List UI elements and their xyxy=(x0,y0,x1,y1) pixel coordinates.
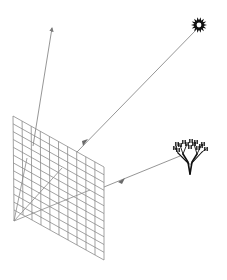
eye-ray-3 xyxy=(14,190,90,221)
diagram-canvas xyxy=(0,0,227,280)
ray-tree-to-plane xyxy=(104,156,180,187)
eye-ray-2 xyxy=(14,168,62,221)
view-ray-up xyxy=(33,28,52,146)
sun-icon xyxy=(191,17,207,33)
ray-sun-to-plane xyxy=(77,30,196,152)
image-plane-grid xyxy=(13,116,104,260)
eye-rays xyxy=(14,158,90,221)
ray-sun-arrow-icon xyxy=(82,139,88,146)
eye-ray-1 xyxy=(14,158,27,221)
